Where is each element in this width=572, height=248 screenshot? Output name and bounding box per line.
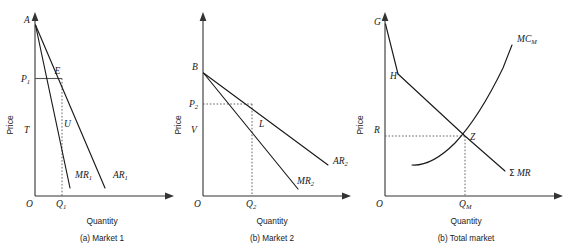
x-axis-arrow-total-market — [554, 193, 563, 200]
point-label-H: H — [389, 71, 398, 81]
point-label-E: E — [54, 66, 61, 76]
x-axis-title-total-market: Quantity — [450, 216, 482, 226]
origin-label-total-market: O — [376, 199, 383, 209]
x-axis-arrow-market-1 — [165, 193, 174, 200]
axis-label-P1: P1 — [20, 74, 30, 85]
axis-label-R: R — [373, 125, 380, 135]
curve-mr2 — [204, 73, 299, 189]
curve-label-MR1: MR1 — [74, 170, 92, 181]
curve-sum-mr-upper-segment — [386, 24, 399, 74]
curve-label-MCM: MCM — [516, 34, 537, 45]
point-label-U: U — [64, 119, 72, 129]
curve-mc-m — [412, 45, 512, 165]
panel-total-market: G H R Z O QM MCM ΣMR Price Quantity (b) … — [355, 12, 563, 243]
curve-mr1 — [36, 25, 71, 188]
y-axis-arrow-market-2 — [200, 12, 207, 21]
x-axis-arrow-market-2 — [342, 193, 351, 200]
y-axis-title-market-2: Price — [173, 115, 183, 134]
caption-market-1: (a) Market 1 — [80, 234, 125, 243]
curve-label-sum-mr: ΣMR — [509, 168, 531, 178]
point-label-Z: Z — [470, 132, 476, 142]
axis-label-Q2: Q2 — [246, 199, 257, 210]
panel-market-2: B L P2 V O Q2 AR2 MR2 Price Quantity (b)… — [173, 12, 351, 243]
point-label-L: L — [258, 119, 264, 129]
panel-market-1: A E U P1 T O Q1 MR1 AR1 Price Quantity (… — [5, 12, 174, 243]
price-discrimination-figure: A E U P1 T O Q1 MR1 AR1 Price Quantity (… — [0, 0, 572, 248]
point-label-A: A — [23, 15, 30, 25]
y-axis-arrow-total-market — [382, 12, 389, 21]
x-axis-title-market-2: Quantity — [256, 216, 288, 226]
caption-market-2: (b) Market 2 — [250, 234, 295, 243]
point-label-B: B — [192, 62, 198, 72]
y-axis-title-total-market: Price — [355, 115, 365, 134]
axis-label-T: T — [24, 125, 30, 135]
curve-label-MR2: MR2 — [296, 176, 315, 187]
y-axis-title-market-1: Price — [5, 115, 15, 134]
figure-canvas: A E U P1 T O Q1 MR1 AR1 Price Quantity (… — [0, 0, 572, 248]
curve-sum-mr-lower-segment — [398, 74, 505, 171]
curve-label-AR2: AR2 — [332, 156, 349, 167]
axis-label-QM: QM — [459, 199, 472, 210]
curve-ar2 — [204, 73, 329, 165]
origin-label-market-1: O — [26, 199, 33, 209]
point-label-G: G — [374, 17, 381, 27]
x-axis-title-market-1: Quantity — [86, 216, 118, 226]
origin-label-market-2: O — [194, 199, 201, 209]
curve-ar1 — [36, 25, 106, 188]
axis-label-V: V — [191, 125, 198, 135]
caption-total-market: (b) Total market — [438, 234, 495, 243]
y-axis-arrow-market-1 — [32, 12, 39, 21]
axis-label-P2: P2 — [188, 99, 199, 110]
axis-label-Q1: Q1 — [56, 199, 66, 210]
curve-label-AR1: AR1 — [112, 170, 128, 181]
